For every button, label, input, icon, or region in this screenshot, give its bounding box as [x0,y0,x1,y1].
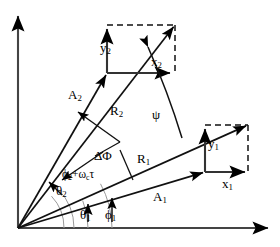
theta1-label: θ1 [80,208,91,223]
x1-label: x1 [222,177,233,192]
vectors-group [18,27,246,228]
r2-label: R2 [110,104,123,119]
phi2-omega-tau-label: ϕ2+ωcτ [62,169,94,182]
theta2-label: θ2 [56,184,67,199]
y2-label: y2 [100,41,111,56]
component-axes-2 [107,25,175,73]
r1-tick-group [120,150,133,180]
x2-label: x2 [151,55,162,70]
phasor-diagram: y2 x2 y1 x1 A2 R2 ψ ΔΦ R1 A1 ϕ2+ωcτ θ2 θ… [0,0,280,247]
a1-label: A1 [153,190,167,205]
phi1-label: ϕ1 [105,208,116,223]
r1-label: R1 [137,152,150,167]
diagram-canvas [0,0,280,247]
y1-label: y1 [208,137,219,152]
r1-tick [120,150,133,180]
a2-label: A2 [68,88,82,103]
delta-phi-label: ΔΦ [94,149,112,162]
psi-label: ψ [152,108,160,121]
